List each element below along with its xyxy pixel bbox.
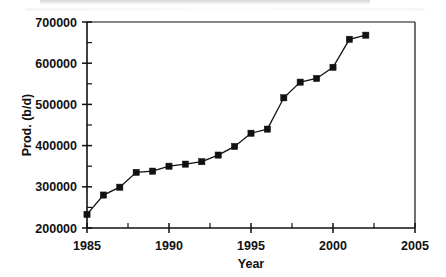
- x-axis-title: Year: [238, 257, 265, 271]
- x-tick-label: 2000: [319, 239, 347, 253]
- data-point-marker: [232, 143, 238, 149]
- x-tick-label: 1990: [155, 239, 183, 253]
- y-axis-title: Prod. (b/d): [20, 94, 34, 157]
- y-tick-label: 500000: [35, 98, 77, 112]
- data-point-marker: [314, 75, 320, 81]
- data-point-marker: [264, 126, 270, 132]
- y-tick-label: 300000: [35, 180, 77, 194]
- data-point-marker: [346, 36, 352, 42]
- data-point-marker: [166, 163, 172, 169]
- data-point-marker: [281, 95, 287, 101]
- data-point-marker: [117, 184, 123, 190]
- y-axis-tick-labels: 200000300000400000500000600000700000: [35, 16, 77, 236]
- data-point-marker: [133, 169, 139, 175]
- x-tick-label: 1985: [73, 239, 101, 253]
- y-tick-label: 400000: [35, 139, 77, 153]
- x-axis-tick-labels: 19851990199520002005: [73, 239, 429, 253]
- line-chart-plot: 200000300000400000500000600000700000 198…: [0, 0, 446, 277]
- y-tick-label: 600000: [35, 57, 77, 71]
- data-point-marker: [297, 79, 303, 85]
- chart-axes: [87, 22, 415, 228]
- data-series-production: [84, 32, 369, 217]
- data-point-marker: [100, 192, 106, 198]
- data-point-marker: [215, 152, 221, 158]
- data-point-marker: [248, 130, 254, 136]
- data-point-marker: [84, 211, 90, 217]
- data-point-marker: [182, 161, 188, 167]
- data-point-marker: [330, 64, 336, 70]
- x-tick-label: 1995: [237, 239, 265, 253]
- chart-figure: 200000300000400000500000600000700000 198…: [0, 0, 446, 277]
- data-point-marker: [150, 168, 156, 174]
- data-point-marker: [199, 159, 205, 165]
- series-line-production: [87, 35, 366, 214]
- data-point-marker: [363, 32, 369, 38]
- y-tick-label: 700000: [35, 16, 77, 30]
- x-tick-label: 2005: [401, 239, 429, 253]
- series-markers-production: [84, 32, 369, 217]
- y-tick-label: 200000: [35, 222, 77, 236]
